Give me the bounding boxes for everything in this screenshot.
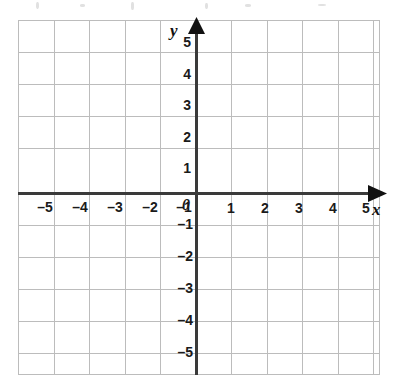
x-tick-label: 1	[227, 201, 235, 215]
y-tick-label: 4	[183, 67, 191, 81]
y-tick-label: –1	[177, 217, 193, 231]
grid-lines	[18, 20, 380, 375]
x-tick-label: –3	[107, 200, 123, 214]
x-axis-label: x	[372, 201, 381, 218]
x-tick-label: 3	[295, 201, 303, 215]
x-tick-label: –2	[142, 200, 158, 214]
x-tick-label: –4	[72, 200, 88, 214]
x-tick-label: –5	[37, 200, 53, 214]
y-tick-label: –4	[177, 313, 193, 327]
y-tick-label: 3	[183, 98, 191, 112]
y-tick-label: –2	[177, 249, 193, 263]
x-tick-label: –1	[176, 200, 192, 214]
y-tick-label: –3	[177, 281, 193, 295]
y-axis-label: y	[170, 22, 178, 39]
x-tick-label: 5	[362, 201, 370, 215]
y-tick-label: 1	[183, 161, 191, 175]
coordinate-plane-figure: y x 0 –5 –4 –3 –2 –1 1 2 3 4 5 5 4 3 2 1…	[0, 0, 397, 386]
y-tick-label: –5	[177, 345, 193, 359]
x-tick-label: 2	[261, 201, 269, 215]
x-tick-label: 4	[329, 201, 337, 215]
y-tick-label: 2	[183, 130, 191, 144]
y-tick-label: 5	[183, 35, 191, 49]
grid-and-axes	[0, 0, 397, 386]
